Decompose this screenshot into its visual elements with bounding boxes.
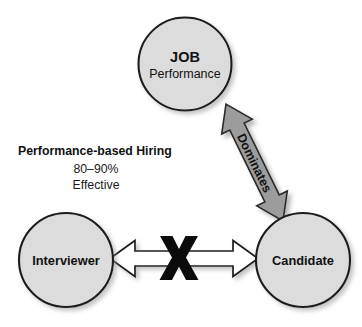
node-interviewer-title: Interviewer: [32, 253, 100, 268]
caption-line-effective: Effective: [73, 178, 120, 192]
caption-line-percent: 80–90%: [73, 162, 118, 176]
node-candidate[interactable]: Candidate: [256, 213, 350, 307]
node-job-subtitle: Performance: [149, 67, 221, 81]
node-job-title: JOB: [170, 49, 200, 65]
diagram-svg: Dominates JOB Performance Interviewer Ca…: [0, 0, 362, 327]
node-candidate-title: Candidate: [272, 253, 334, 268]
node-interviewer[interactable]: Interviewer: [19, 213, 113, 307]
caption-block: Performance-based Hiring 80–90% Effectiv…: [18, 144, 172, 192]
connector-dominates-label: Dominates: [234, 131, 275, 195]
caption-title: Performance-based Hiring: [18, 144, 172, 158]
diagram-canvas: Dominates JOB Performance Interviewer Ca…: [0, 0, 362, 327]
node-job[interactable]: JOB Performance: [139, 18, 232, 111]
